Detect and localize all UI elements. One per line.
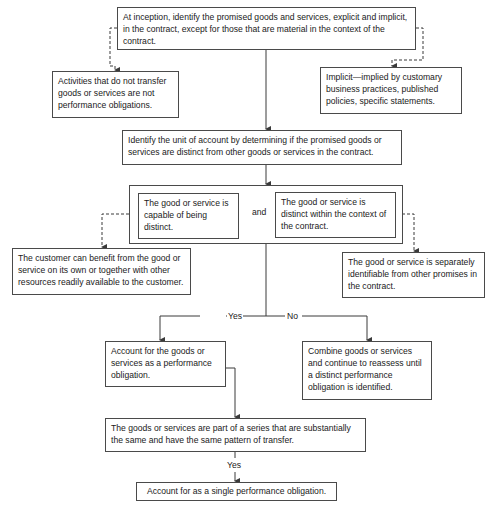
distinct-context-text: The good or service is distinct within t…	[281, 197, 386, 231]
series-yes-label: Yes	[226, 460, 242, 470]
yes-label: Yes	[227, 311, 243, 321]
separately-identifiable-text: The good or service is separately identi…	[348, 257, 477, 291]
account-po-box: Account for the goods or services as a p…	[105, 341, 226, 387]
inception-text: At inception, identify the promised good…	[123, 12, 407, 46]
no-label: No	[286, 311, 299, 321]
single-po-text: Account for as a single performance obli…	[147, 486, 326, 496]
series-box: The goods or services are part of a seri…	[105, 418, 366, 452]
activities-text: Activities that do not transfer goods or…	[58, 76, 166, 110]
implicit-box: Implicit—implied by customary business p…	[320, 67, 462, 114]
distinct-context-box: The good or service is distinct within t…	[275, 192, 396, 238]
capable-distinct-text: The good or service is capable of being …	[144, 198, 229, 232]
separately-identifiable-box: The good or service is separately identi…	[342, 252, 485, 298]
single-po-box: Account for as a single performance obli…	[136, 482, 337, 501]
unit-of-account-text: Identify the unit of account by determin…	[128, 135, 382, 157]
inception-box: At inception, identify the promised good…	[117, 7, 416, 50]
implicit-text: Implicit—implied by customary business p…	[326, 72, 442, 106]
combine-text: Combine goods or services and continue t…	[308, 346, 422, 392]
series-text: The goods or services are part of a seri…	[111, 423, 351, 445]
customer-benefit-text: The customer can benefit from the good o…	[18, 253, 183, 287]
account-po-text: Account for the goods or services as a p…	[111, 346, 212, 380]
unit-of-account-box: Identify the unit of account by determin…	[122, 130, 402, 165]
combine-box: Combine goods or services and continue t…	[302, 341, 432, 400]
activities-box: Activities that do not transfer goods or…	[52, 71, 179, 118]
customer-benefit-box: The customer can benefit from the good o…	[12, 248, 191, 295]
and-label: and	[251, 207, 267, 217]
capable-distinct-box: The good or service is capable of being …	[138, 193, 239, 239]
